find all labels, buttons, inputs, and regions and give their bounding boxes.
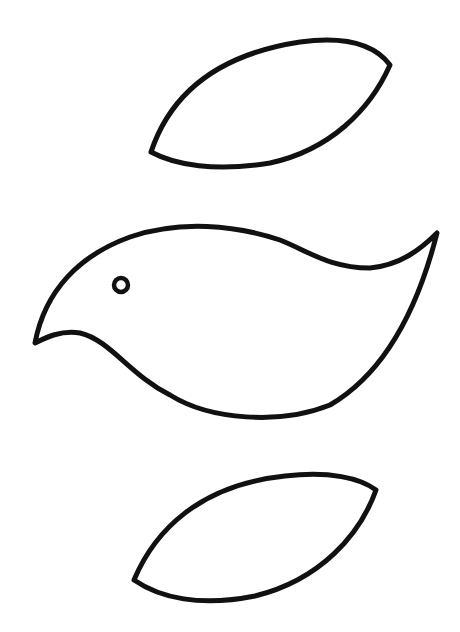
bird-eye-icon bbox=[114, 278, 128, 292]
template-drawing bbox=[0, 0, 460, 632]
lower-wing-outline bbox=[134, 474, 376, 600]
upper-wing-outline bbox=[151, 40, 390, 167]
drawing-canvas bbox=[0, 0, 460, 632]
bird-body-outline bbox=[35, 226, 437, 417]
